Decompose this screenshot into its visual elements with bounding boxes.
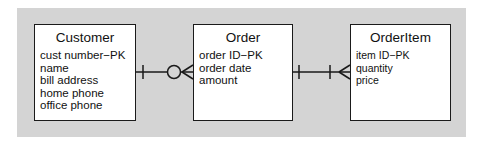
attribute: order date xyxy=(199,62,292,75)
attribute-list: order ID−PK order date amount xyxy=(199,49,292,87)
attribute: quantity xyxy=(356,62,450,75)
attribute-list: cust number−PK name bill address home ph… xyxy=(40,49,135,112)
entity-order: Order order ID−PK order date amount xyxy=(193,24,293,121)
attribute: cust number−PK xyxy=(40,49,135,62)
relationship-customer-order xyxy=(135,65,193,79)
attribute: price xyxy=(356,74,450,87)
attribute: item ID−PK xyxy=(356,49,450,62)
attribute: office phone xyxy=(40,99,135,112)
attribute: name xyxy=(40,62,135,75)
attribute: home phone xyxy=(40,87,135,100)
relationship-order-orderitem xyxy=(292,65,350,79)
crowfoot-icon xyxy=(182,65,193,72)
attribute-list: item ID−PK quantity price xyxy=(356,49,450,87)
attribute: order ID−PK xyxy=(199,49,292,62)
entity-title: OrderItem xyxy=(351,30,450,46)
entity-title: Order xyxy=(194,30,292,46)
zero-circle-icon xyxy=(168,66,181,79)
crowfoot-icon xyxy=(339,65,350,72)
attribute: bill address xyxy=(40,74,135,87)
attribute: amount xyxy=(199,74,292,87)
entity-title: Customer xyxy=(35,30,135,46)
entity-customer: Customer cust number−PK name bill addres… xyxy=(34,24,136,121)
entity-orderitem: OrderItem item ID−PK quantity price xyxy=(350,24,451,121)
